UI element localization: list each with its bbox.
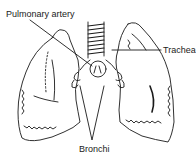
pulmonary-trunk-drawing <box>80 60 116 77</box>
bronchi-leader <box>80 86 104 140</box>
label-bronchi: Bronchi <box>79 144 110 154</box>
lung-illustration <box>0 0 196 167</box>
left-lung-drawing <box>18 30 80 141</box>
label-pulmonary-artery: Pulmonary artery <box>6 9 75 19</box>
trachea-drawing <box>88 22 104 58</box>
label-trachea: Trachea <box>163 45 196 55</box>
lung-diagram: Pulmonary artery Trachea Bronchi <box>0 0 196 167</box>
bronchi-drawing <box>72 72 125 88</box>
pulmonary-artery-leader <box>30 20 92 66</box>
right-lung-drawing <box>116 23 174 142</box>
